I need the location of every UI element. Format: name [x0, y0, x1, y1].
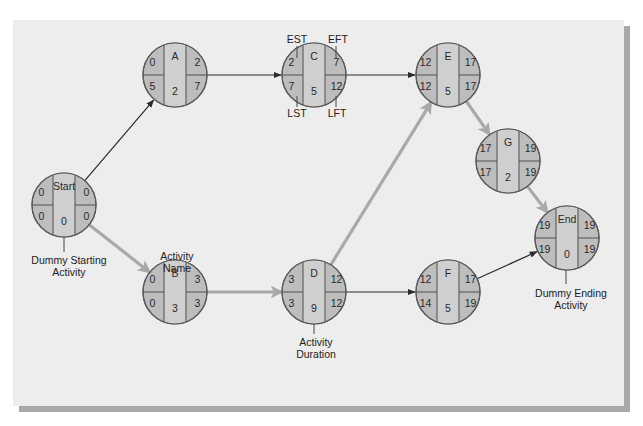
lft-value: 0: [84, 210, 90, 222]
est-value: 12: [420, 273, 432, 285]
eft-value: 2: [195, 56, 201, 68]
eft-value: 19: [584, 219, 596, 231]
edge-e-to-g-critical: [466, 101, 489, 134]
activity-duration-label-2: Duration: [296, 348, 336, 360]
est-value: 0: [39, 186, 45, 198]
nodes: Start00000A02572B03033C277125D3123129E12…: [32, 43, 599, 324]
edge-f-to-end: [477, 252, 537, 279]
activity-name: E: [444, 50, 451, 62]
est-value: 19: [539, 219, 551, 231]
dummy-start-label-2: Activity: [52, 266, 86, 278]
duration-value: 5: [445, 85, 451, 97]
eft-value: 7: [334, 56, 340, 68]
lft-value: 17: [465, 80, 477, 92]
node-d: D3123129: [282, 260, 346, 324]
dummy-start-label-1: Dummy Starting: [31, 254, 106, 266]
eft-value: 19: [525, 142, 537, 154]
lst-label: LST: [287, 107, 307, 119]
activity-name: F: [445, 267, 451, 279]
eft-value: 17: [465, 273, 477, 285]
est-value: 3: [289, 273, 295, 285]
lst-value: 14: [420, 297, 432, 309]
est-label: EST: [287, 33, 308, 45]
duration-value: 2: [505, 171, 511, 183]
eft-value: 0: [84, 186, 90, 198]
node-a: A02572: [143, 43, 207, 107]
lft-value: 19: [584, 243, 596, 255]
duration-value: 0: [61, 215, 67, 227]
activity-name-label-2: Name: [163, 262, 191, 274]
edges: [85, 75, 547, 292]
activity-name-label-1: Activity: [160, 250, 194, 262]
lst-value: 3: [289, 297, 295, 309]
lst-value: 7: [289, 80, 295, 92]
node-start: Start00000: [32, 173, 96, 237]
activity-name: End: [558, 213, 577, 225]
dummy-end-label-1: Dummy Ending: [535, 287, 607, 299]
duration-value: 0: [564, 248, 570, 260]
est-value: 0: [150, 273, 156, 285]
lst-value: 19: [539, 243, 551, 255]
lft-value: 19: [525, 166, 537, 178]
node-f: F121714195: [416, 260, 480, 324]
activity-name: D: [310, 267, 318, 279]
activity-name: C: [310, 50, 318, 62]
lft-value: 12: [331, 297, 343, 309]
est-value: 0: [150, 56, 156, 68]
lst-value: 5: [150, 80, 156, 92]
eft-value: 3: [195, 273, 201, 285]
eft-label: EFT: [328, 33, 348, 45]
lft-value: 3: [195, 297, 201, 309]
edge-start-to-a: [85, 100, 154, 181]
duration-value: 2: [172, 85, 178, 97]
network-diagram: Start00000A02572B03033C277125D3123129E12…: [0, 0, 643, 426]
duration-value: 5: [311, 85, 317, 97]
lst-value: 12: [420, 80, 432, 92]
dummy-end-label-2: Activity: [554, 299, 588, 311]
lst-value: 0: [39, 210, 45, 222]
node-end: End191919190: [535, 206, 599, 270]
lft-value: 7: [195, 80, 201, 92]
lft-value: 19: [465, 297, 477, 309]
est-value: 12: [420, 56, 432, 68]
duration-value: 5: [445, 302, 451, 314]
activity-name: G: [504, 136, 512, 148]
node-e: E121712175: [416, 43, 480, 107]
lft-label: LFT: [328, 107, 347, 119]
duration-value: 9: [311, 302, 317, 314]
lst-value: 0: [150, 297, 156, 309]
edge-g-to-end-critical: [527, 186, 546, 211]
activity-duration-label-1: Activity: [299, 336, 333, 348]
activity-name: A: [171, 50, 178, 62]
duration-value: 3: [172, 302, 178, 314]
node-g: G171917192: [476, 129, 540, 193]
est-value: 17: [480, 142, 492, 154]
activity-name: Start: [53, 180, 75, 192]
est-value: 2: [289, 56, 295, 68]
lft-value: 12: [331, 80, 343, 92]
eft-value: 12: [331, 273, 343, 285]
eft-value: 17: [465, 56, 477, 68]
lst-value: 17: [480, 166, 492, 178]
edge-d-to-e-critical: [331, 103, 431, 265]
